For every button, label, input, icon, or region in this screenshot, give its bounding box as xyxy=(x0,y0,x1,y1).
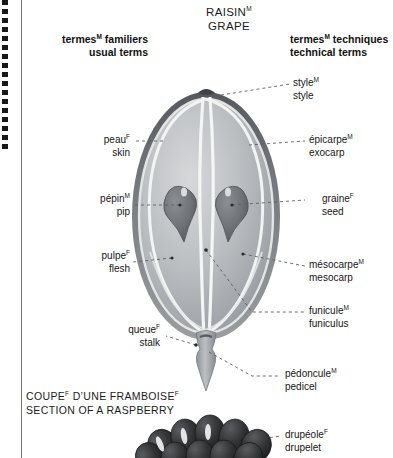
label-queue-en: stalk xyxy=(139,337,160,348)
label-pepin-fr: pépin xyxy=(100,193,124,204)
label-mesocarpe-fr: mésocarpe xyxy=(309,259,358,270)
label-graine-fr: graine xyxy=(322,193,350,204)
label-funicule-gender: M xyxy=(343,304,348,311)
drupelet-highlight xyxy=(205,424,211,440)
label-drupeole-en: drupelet xyxy=(285,442,321,453)
label-funicule-funiculus: funiculeM funiculus xyxy=(309,305,349,330)
label-pedoncule-gender: M xyxy=(331,367,336,374)
pedicel-stalk xyxy=(196,331,216,392)
label-pedoncule-en: pedicel xyxy=(285,381,317,392)
label-queue-stalk: queueF stalk xyxy=(63,324,160,349)
section-heading-fr-gender-2: F xyxy=(175,390,179,397)
label-style: styleM style xyxy=(293,77,319,102)
label-funicule-en: funiculus xyxy=(309,318,348,329)
dot-funiculus xyxy=(204,248,208,252)
label-queue-fr: queue xyxy=(128,324,156,335)
label-peau-en: skin xyxy=(112,147,130,158)
label-drupeole-drupelet: drupéoleF drupelet xyxy=(285,429,328,454)
leader-style xyxy=(215,84,290,96)
label-pulpe-fr: pulpe xyxy=(102,250,126,261)
label-graine-gender: F xyxy=(350,192,354,199)
label-pulpe-flesh: pulpeF flesh xyxy=(33,250,130,275)
label-mesocarpe-en: mesocarp xyxy=(309,272,353,283)
label-epicarpe-exocarp: épicarpeM exocarp xyxy=(309,134,353,159)
leader-pedicel xyxy=(209,352,281,376)
label-mesocarpe-gender: M xyxy=(358,258,363,265)
label-pepin-gender: M xyxy=(125,192,130,199)
raspberry-section xyxy=(130,415,277,458)
label-drupeole-gender: F xyxy=(324,428,328,435)
label-funicule-fr: funicule xyxy=(309,305,343,316)
dot-seed xyxy=(230,203,233,206)
label-pedoncule-pedicel: pédonculeM pedicel xyxy=(285,368,337,393)
label-graine-en: seed xyxy=(322,206,344,217)
label-pepin-en: pip xyxy=(117,206,130,217)
label-pepin-pip: pépinM pip xyxy=(33,193,130,218)
label-epicarpe-fr: épicarpe xyxy=(309,134,347,145)
label-epicarpe-gender: M xyxy=(347,133,352,140)
label-style-gender: M xyxy=(314,76,319,83)
section-heading-fr-mid: D’UNE FRAMBOISE xyxy=(69,390,174,402)
label-style-fr: style xyxy=(293,77,314,88)
label-pulpe-en: flesh xyxy=(109,263,130,274)
dot-stalk xyxy=(194,343,198,347)
section-heading-en: SECTION OF A RASPBERRY xyxy=(26,404,174,416)
label-graine-seed: graineF seed xyxy=(322,193,354,218)
label-peau-skin: peauF skin xyxy=(33,134,130,159)
label-pulpe-gender: F xyxy=(126,249,130,256)
section-heading-raspberry: COUPEF D’UNE FRAMBOISEF SECTION OF A RAS… xyxy=(26,390,179,417)
dot-flesh xyxy=(170,256,173,259)
label-epicarpe-en: exocarp xyxy=(309,147,345,158)
label-peau-fr: peau xyxy=(104,134,126,145)
dot-mesocarp xyxy=(241,252,244,255)
label-queue-gender: F xyxy=(156,323,160,330)
label-style-en: style xyxy=(293,90,314,101)
dot-pip xyxy=(178,203,181,206)
seed-left-highlight xyxy=(181,188,187,197)
section-heading-fr-main: COUPE xyxy=(26,390,65,402)
label-drupeole-fr: drupéole xyxy=(285,429,324,440)
label-pedoncule-fr: pédoncule xyxy=(285,368,331,379)
label-peau-gender: F xyxy=(126,133,130,140)
seed-right-highlight xyxy=(225,188,231,197)
label-mesocarpe-mesocarp: mésocarpeM mesocarp xyxy=(309,259,364,284)
